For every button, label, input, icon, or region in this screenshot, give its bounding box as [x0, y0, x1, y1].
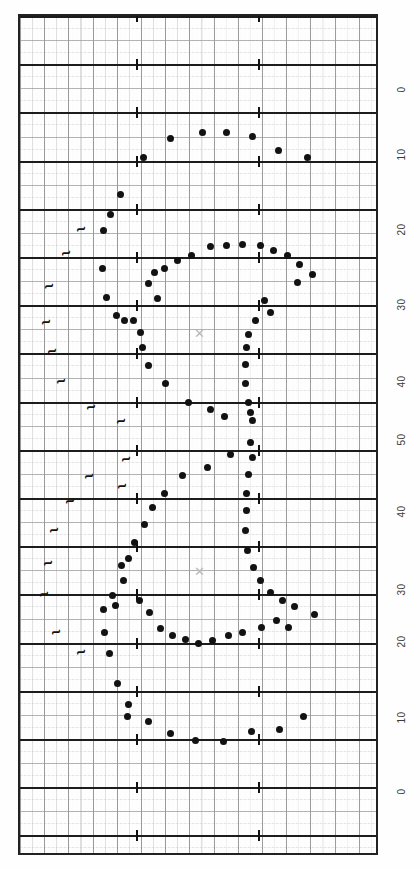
data-point	[294, 279, 301, 286]
data-point	[161, 265, 168, 272]
data-point	[300, 713, 307, 720]
grid-horizontal	[20, 16, 376, 853]
data-point	[248, 728, 255, 735]
axis-right-labels: 01020304050403020100	[386, 14, 416, 855]
data-point	[146, 609, 153, 616]
grid-minor	[20, 16, 376, 853]
data-point	[195, 640, 202, 647]
data-point	[125, 555, 132, 562]
axis-tick-label: 30	[396, 290, 407, 320]
data-point	[243, 344, 250, 351]
annotation-x-marker: ✕	[192, 327, 206, 341]
event-mark: ʅ	[59, 251, 69, 255]
event-mark: ʅ	[74, 650, 84, 654]
data-point	[223, 129, 230, 136]
data-point	[247, 409, 254, 416]
data-point	[279, 597, 286, 604]
data-point	[243, 507, 250, 514]
axis-tick-column	[258, 16, 260, 853]
data-point	[99, 265, 106, 272]
axis-tick-label: 10	[396, 703, 407, 733]
data-point	[242, 361, 249, 368]
data-point	[296, 261, 303, 268]
data-point	[220, 738, 227, 745]
data-point	[311, 611, 318, 618]
data-point	[174, 257, 181, 264]
data-point	[154, 295, 161, 302]
data-point	[199, 129, 206, 136]
data-point	[121, 317, 128, 324]
event-mark: ʅ	[45, 349, 55, 353]
data-point	[139, 344, 146, 351]
data-point	[247, 439, 254, 446]
event-mark: ʅ	[115, 484, 125, 488]
data-point	[185, 399, 192, 406]
data-point	[304, 154, 311, 161]
data-point	[114, 680, 121, 687]
data-point	[284, 252, 291, 259]
data-point	[137, 329, 144, 336]
axis-tick-label: 20	[396, 215, 407, 245]
annotation-x-marker: ✕	[192, 565, 206, 579]
event-mark: ʅ	[41, 561, 51, 565]
event-mark: ʅ	[47, 528, 57, 532]
data-point	[113, 312, 120, 319]
data-point	[309, 271, 316, 278]
data-point	[117, 191, 124, 198]
grid-vertical	[20, 16, 376, 853]
data-point	[261, 297, 268, 304]
data-point	[245, 471, 252, 478]
data-point	[242, 380, 249, 387]
data-point	[252, 317, 259, 324]
data-point	[209, 637, 216, 644]
data-point	[145, 362, 152, 369]
data-point	[151, 269, 158, 276]
data-point	[249, 133, 256, 140]
data-point	[100, 606, 107, 613]
data-point	[242, 527, 249, 534]
data-point	[188, 252, 195, 259]
event-mark: ʅ	[84, 405, 94, 409]
data-point	[136, 597, 143, 604]
event-mark: ʅ	[119, 457, 129, 461]
data-point	[239, 241, 246, 248]
event-mark: ʅ	[63, 499, 73, 503]
data-point	[101, 629, 108, 636]
event-mark: ʅ	[82, 474, 92, 478]
data-point	[103, 294, 110, 301]
data-point	[120, 577, 127, 584]
event-mark: ʅ	[114, 419, 124, 423]
event-mark: ʅ	[37, 592, 47, 596]
data-point	[275, 147, 282, 154]
data-point	[161, 490, 168, 497]
data-point	[243, 490, 250, 497]
axis-tick-label: 30	[396, 575, 407, 605]
data-point	[118, 562, 125, 569]
data-point	[267, 589, 274, 596]
data-point	[244, 547, 251, 554]
data-point	[100, 227, 107, 234]
axis-tick-label: 10	[396, 140, 407, 170]
data-point	[221, 413, 228, 420]
data-point	[169, 632, 176, 639]
data-point	[130, 317, 137, 324]
data-point	[249, 417, 256, 424]
grid-dot-mask	[20, 16, 376, 853]
data-point	[258, 624, 265, 631]
plot-frame: ✕✕	[18, 14, 378, 855]
data-point	[270, 247, 277, 254]
data-point	[257, 242, 264, 249]
data-point	[167, 135, 174, 142]
data-point	[125, 701, 132, 708]
data-point	[267, 309, 274, 316]
data-point	[227, 451, 234, 458]
data-point	[207, 243, 214, 250]
data-point	[107, 211, 114, 218]
data-point	[124, 713, 131, 720]
axis-tick-label: 20	[396, 627, 407, 657]
data-point	[131, 539, 138, 546]
data-point	[225, 632, 232, 639]
data-point	[162, 380, 169, 387]
data-point	[106, 650, 113, 657]
axis-tick-label: 0	[396, 777, 407, 807]
